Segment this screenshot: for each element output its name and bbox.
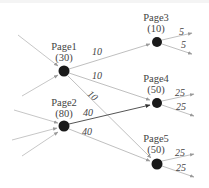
pagerank-diagram: 10 10 10 40 40 5 5 25 [0, 0, 209, 188]
edge-label: 25 [175, 87, 185, 98]
edge-label: 25 [176, 162, 186, 173]
edge-page2-page5: 40 [69, 126, 150, 161]
edge-label: 40 [82, 126, 92, 137]
edge-label: 10 [92, 46, 102, 57]
node-name: Page3 [143, 12, 169, 23]
edge-label: 10 [92, 70, 102, 81]
edge-page2-page4: 40 [69, 105, 150, 124]
edge-label: 5 [179, 26, 184, 37]
node-name: Page4 [143, 73, 169, 84]
node-page2: Page2 (80) [51, 97, 77, 132]
cropped-caption-fragment [0, 0, 209, 3]
node-page1: Page1 (30) [51, 41, 77, 77]
edges-page3-out: 5 5 [162, 26, 192, 54]
node-value: (30) [55, 52, 73, 64]
node-page3: Page3 (10) [143, 12, 169, 47]
edge-label: 40 [83, 107, 93, 118]
edge-label: 5 [181, 39, 186, 50]
node-value: (80) [55, 108, 73, 120]
edge-page1-page4: 10 [69, 70, 150, 100]
node-name: Page1 [51, 41, 77, 52]
edge-label: 25 [175, 147, 185, 158]
incoming-edges-page2 [12, 110, 58, 156]
node-name: Page5 [143, 133, 169, 144]
edge-page1-page3: 10 [69, 44, 150, 69]
node-value: (10) [147, 23, 165, 35]
node-page5: Page5 (50) [143, 133, 169, 170]
edge-label: 25 [176, 101, 186, 112]
edge-page1-page5: 10 [68, 76, 151, 158]
node-page4: Page4 (50) [143, 73, 169, 108]
edges-page4-out: 25 25 [162, 87, 194, 116]
node-name: Page2 [51, 97, 77, 108]
node-value: (50) [147, 144, 165, 156]
edge-label: 10 [85, 88, 100, 103]
node-value: (50) [147, 84, 165, 96]
edges-page5-out: 25 25 [162, 147, 194, 177]
